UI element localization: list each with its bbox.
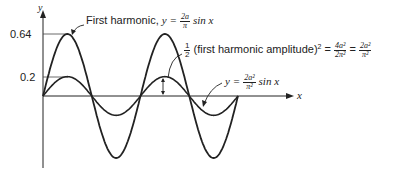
leader-squared-curve [204, 83, 222, 104]
half-amplitude-annotation: 12 (first harmonic amplitude)2 = 4a²2π² … [184, 42, 371, 59]
y-axis-label: y [38, 3, 42, 13]
tick-label-064: 0.64 [10, 29, 31, 40]
leader-arrow-icon [202, 100, 207, 107]
tick-label-02: 0.2 [20, 72, 35, 83]
x-axis-label: x [297, 90, 302, 101]
leader-half-amplitude [168, 54, 182, 78]
x-axis-arrow-icon [286, 93, 294, 99]
first-harmonic-annotation: First harmonic, y = 2aπ sin x [86, 13, 213, 30]
arrow-up-icon [161, 78, 165, 82]
squared-curve-annotation: y = 2a²π² sin x [225, 74, 279, 91]
arrow-down-icon [161, 91, 165, 95]
